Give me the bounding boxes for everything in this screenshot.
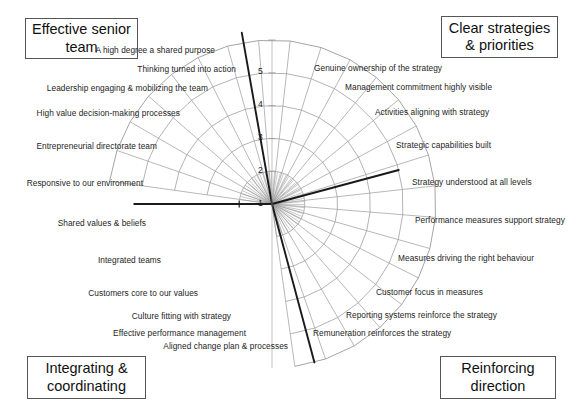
scale-tick-label: 3: [258, 132, 263, 142]
axis-label: Reporting systems reinforce the strategy: [346, 311, 497, 319]
axis-label: Entrepreneurial directorate team: [0, 142, 157, 150]
axis-label: Strategic capabilities built: [396, 141, 491, 149]
scale-tick-label: 4: [258, 99, 263, 109]
quadrant-label-clear-strategies-priorities: Clear strategies & priorities: [441, 16, 558, 58]
radar-chart-figure: Effective senior team Clear strategies &…: [0, 0, 576, 413]
axis-label: A high degree a shared purpose: [0, 46, 215, 54]
axis-label: Customers core to our values: [0, 289, 198, 297]
axis-label: Management commitment highly visible: [345, 83, 492, 91]
axis-label: Leadership engaging & mobilizing the tea…: [0, 84, 208, 92]
quadrant-label-integrating-coordinating: Integrating & coordinating: [27, 356, 146, 399]
axis-label: Performance measures support strategy: [415, 216, 565, 224]
axis-label: Activities aligning with strategy: [375, 108, 489, 116]
quadrant-label-reinforcing-direction: Reinforcing direction: [440, 356, 556, 399]
scale-tick-label: 5: [258, 66, 263, 76]
axis-label: Measures driving the right behaviour: [398, 254, 534, 262]
axis-label: Shared values & beliefs: [0, 219, 146, 227]
axis-label: Strategy understood at all levels: [412, 178, 532, 186]
scale-tick-label: 2: [258, 165, 263, 175]
axis-label: Thinking turned into action: [0, 65, 236, 73]
radar-grid: [0, 0, 576, 413]
axis-label: Culture fitting with strategy: [0, 312, 231, 320]
axis-label: Genuine ownership of the strategy: [314, 64, 442, 72]
axis-label: Effective performance management: [0, 329, 246, 337]
axis-label: Aligned change plan & processes: [0, 342, 288, 350]
axis-label: Responsive to our environment: [0, 179, 143, 187]
axis-label: Remuneration reinforces the strategy: [313, 329, 451, 337]
axis-label: High value decision-making processes: [0, 109, 180, 117]
axis-label: Integrated teams: [0, 256, 161, 264]
scale-tick-label: 1: [258, 198, 263, 208]
axis-label: Customer focus in measures: [376, 288, 483, 296]
